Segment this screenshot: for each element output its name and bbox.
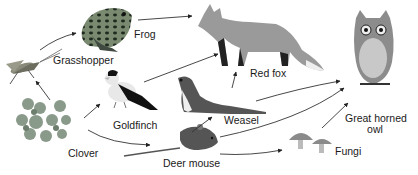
arrow-clover-to-mouse: [88, 130, 150, 145]
arrow-grasshopper-to-frog: [40, 33, 76, 50]
label-red-fox: Red fox: [250, 68, 286, 79]
label-weasel: Weasel: [224, 115, 259, 126]
mushroom-icon: [289, 133, 332, 153]
goldfinch-icon: [104, 70, 158, 110]
label-goldfinch: Goldfinch: [113, 120, 157, 131]
arrow-clover-to-goldfinch: [84, 104, 100, 118]
arrow-frog-to-fox: [138, 16, 192, 20]
clover-icon: [16, 98, 71, 142]
arrow-mouse-to-fungi: [220, 150, 282, 155]
frog-icon: [82, 8, 132, 52]
label-grasshopper: Grasshopper: [53, 55, 114, 66]
weasel-icon: [178, 76, 266, 114]
arrow-clover-to-grasshopper: [36, 81, 50, 100]
label-great-horned-owl-line2: owl: [345, 124, 405, 135]
label-frog: Frog: [134, 29, 156, 40]
label-fungi: Fungi: [335, 146, 361, 157]
arrow-weasel-to-fox: [232, 72, 236, 88]
label-clover: Clover: [68, 148, 98, 159]
label-deer-mouse: Deer mouse: [163, 158, 220, 169]
arrow-weasel-to-owl: [256, 81, 340, 101]
owl-icon: [354, 10, 394, 84]
fox-icon: [198, 4, 324, 71]
